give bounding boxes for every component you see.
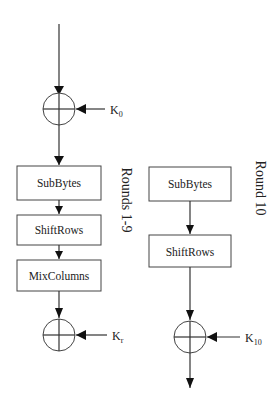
key-k0-label: K0 xyxy=(110,103,123,119)
box-subbytes-r10: SubBytes xyxy=(149,167,231,201)
arrow-mixcolumns-xor xyxy=(55,291,63,318)
arrow-subbytes-shiftrows xyxy=(55,200,63,214)
svg-text:MixColumns: MixColumns xyxy=(29,270,90,282)
box-mixcolumns-r1-9: MixColumns xyxy=(17,260,101,291)
arrow-shiftrows-mixcolumns xyxy=(55,245,63,259)
svg-text:SubBytes: SubBytes xyxy=(168,178,213,191)
xor-k10: K10 xyxy=(174,321,262,353)
key-kr-label: Kr xyxy=(112,329,124,345)
box-shiftrows-r1-9: ShiftRows xyxy=(17,215,101,245)
xor-kr: Kr xyxy=(43,319,124,351)
svg-text:ShiftRows: ShiftRows xyxy=(35,224,84,236)
svg-text:ShiftRows: ShiftRows xyxy=(166,246,215,258)
arrow-left-icon xyxy=(207,332,217,342)
aes-round-diagram: K0 SubBytes ShiftRows MixColumns Kr Ro xyxy=(0,0,279,408)
arrow-left-icon xyxy=(76,330,86,340)
box-subbytes-r1-9: SubBytes xyxy=(17,166,101,200)
round-10-label: Round 10 xyxy=(253,161,268,216)
initial-input-arrow xyxy=(54,24,64,95)
box-shiftrows-r10: ShiftRows xyxy=(149,235,231,267)
rounds-1-9-label: Rounds 1-9 xyxy=(119,168,134,233)
arrow-left-icon xyxy=(76,104,86,114)
output-arrow xyxy=(186,353,194,388)
arrow-shiftrows-xor-r10 xyxy=(186,267,194,320)
arrow-to-subbytes xyxy=(54,125,64,165)
svg-text:SubBytes: SubBytes xyxy=(37,177,82,190)
key-k10-label: K10 xyxy=(245,331,262,347)
xor-k0: K0 xyxy=(43,93,123,125)
arrow-subbytes-shiftrows-r10 xyxy=(186,201,194,234)
